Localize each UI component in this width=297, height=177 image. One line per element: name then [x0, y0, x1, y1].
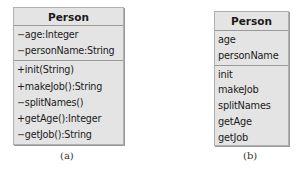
class-name: Person: [215, 12, 288, 31]
operation: getJob: [218, 130, 288, 146]
operations-section: +init(String) +makeJob():String −splitNa…: [14, 61, 123, 144]
caption-b: (b): [243, 150, 257, 161]
attribute: personName: [218, 48, 288, 64]
class-name: Person: [14, 8, 123, 26]
operation: +getAge():Integer: [17, 111, 123, 127]
caption-a: (a): [60, 150, 74, 161]
uml-class-box-detailed: Person −age:Integer −personName:String +…: [13, 7, 124, 145]
operation: splitNames: [218, 98, 288, 114]
operation: −getJob():String: [17, 127, 123, 143]
operation: init: [218, 67, 288, 83]
uml-class-box-simple: Person age personName init makeJob split…: [214, 11, 289, 146]
operation: −splitNames(): [17, 95, 123, 111]
attribute: −personName:String: [17, 43, 123, 59]
operation: makeJob: [218, 82, 288, 98]
operation: +makeJob():String: [17, 79, 123, 95]
attribute: age: [218, 32, 288, 48]
operations-section: init makeJob splitNames getAge getJob: [215, 66, 288, 147]
attributes-section: age personName: [215, 31, 288, 66]
operation: getAge: [218, 114, 288, 130]
attributes-section: −age:Integer −personName:String: [14, 26, 123, 61]
operation: +init(String): [17, 62, 123, 78]
attribute: −age:Integer: [17, 27, 123, 43]
